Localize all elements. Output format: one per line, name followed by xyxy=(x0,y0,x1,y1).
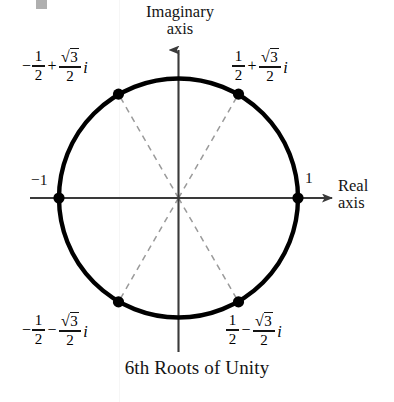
imaginary-axis-label-line1: Imaginary xyxy=(122,3,238,20)
root-60-imaginary-unit: i xyxy=(281,60,288,76)
radical-icon: √ 3 xyxy=(61,312,79,329)
radical-icon: √ 3 xyxy=(255,312,273,329)
root-120-imag-denominator: 2 xyxy=(64,68,76,84)
real-axis-label: Real axis xyxy=(338,177,394,212)
root-300-operator: − xyxy=(239,322,253,338)
root-240-real-fraction: 1 2 xyxy=(32,313,45,346)
imaginary-axis-label-line2: axis xyxy=(122,20,238,37)
root-240-imag-fraction: √ 3 2 xyxy=(59,312,81,348)
root-label-300deg: 1 2 − √ 3 2 i xyxy=(226,310,282,350)
root-point-0deg xyxy=(292,192,303,203)
root-240-surd: √ xyxy=(61,313,70,330)
root-point-240deg xyxy=(113,296,124,307)
root-60-imag-numerator: √ 3 xyxy=(259,48,281,66)
root-120-real-numerator: 1 xyxy=(33,49,45,65)
real-axis-label-line1: Real xyxy=(338,177,394,194)
root-60-surd: √ xyxy=(261,49,270,66)
dashed-radius-60 xyxy=(179,94,239,198)
root-60-imag-denominator: 2 xyxy=(264,68,276,84)
root-label-240deg: − 1 2 − √ 3 2 i xyxy=(22,310,88,350)
root-240-operator: − xyxy=(45,322,59,338)
root-300-real-numerator: 1 xyxy=(227,313,239,329)
root-60-real-denominator: 2 xyxy=(233,67,245,83)
root-120-imag-numerator: √ 3 xyxy=(59,48,81,66)
root-120-surd: √ xyxy=(61,49,70,66)
root-point-60deg xyxy=(233,89,244,100)
root-300-imag-numerator: √ 3 xyxy=(253,312,275,330)
root-240-imag-numerator: √ 3 xyxy=(59,312,81,330)
root-240-real-denominator: 2 xyxy=(33,331,45,347)
root-240-real-sign: − xyxy=(22,322,32,338)
root-120-real-fraction: 1 2 xyxy=(32,49,45,82)
tick-label-negative-one: −1 xyxy=(31,172,48,188)
root-60-radicand: 3 xyxy=(270,48,279,65)
root-300-imaginary-unit: i xyxy=(275,324,282,340)
dashed-radius-240 xyxy=(119,198,179,302)
root-point-180deg xyxy=(53,192,64,203)
root-240-radicand: 3 xyxy=(70,312,79,329)
root-300-imag-fraction: √ 3 2 xyxy=(253,312,275,348)
root-120-imaginary-unit: i xyxy=(81,60,88,76)
root-120-real-sign: − xyxy=(22,58,32,74)
dashed-radius-300 xyxy=(179,198,239,302)
root-120-operator: + xyxy=(45,58,59,74)
root-300-radicand: 3 xyxy=(264,312,273,329)
dashed-radius-120 xyxy=(119,94,179,198)
root-120-imag-fraction: √ 3 2 xyxy=(59,48,81,84)
radical-icon: √ 3 xyxy=(61,48,79,65)
sixth-roots-of-unity-figure: Imaginary axis Real axis −1 1 − 1 2 + √ … xyxy=(0,0,394,402)
root-240-imaginary-unit: i xyxy=(81,324,88,340)
root-300-surd: √ xyxy=(255,313,264,330)
root-300-real-denominator: 2 xyxy=(227,331,239,347)
root-label-60deg: 1 2 + √ 3 2 i xyxy=(232,46,288,86)
root-60-real-fraction: 1 2 xyxy=(232,49,245,82)
root-point-300deg xyxy=(233,296,244,307)
root-300-imag-denominator: 2 xyxy=(258,332,270,348)
tick-label-positive-one: 1 xyxy=(305,170,313,186)
figure-caption: 6th Roots of Unity xyxy=(0,358,394,378)
radical-icon: √ 3 xyxy=(261,48,279,65)
imaginary-axis-label: Imaginary axis xyxy=(122,3,238,38)
root-120-radicand: 3 xyxy=(70,48,79,65)
root-60-imag-fraction: √ 3 2 xyxy=(259,48,281,84)
root-240-imag-denominator: 2 xyxy=(64,332,76,348)
root-120-real-denominator: 2 xyxy=(33,67,45,83)
root-60-operator: + xyxy=(245,58,259,74)
real-axis-label-line2: axis xyxy=(338,194,394,211)
root-label-120deg: − 1 2 + √ 3 2 i xyxy=(22,46,88,86)
root-point-120deg xyxy=(113,89,124,100)
root-240-real-numerator: 1 xyxy=(33,313,45,329)
root-300-real-fraction: 1 2 xyxy=(226,313,239,346)
root-60-real-numerator: 1 xyxy=(233,49,245,65)
